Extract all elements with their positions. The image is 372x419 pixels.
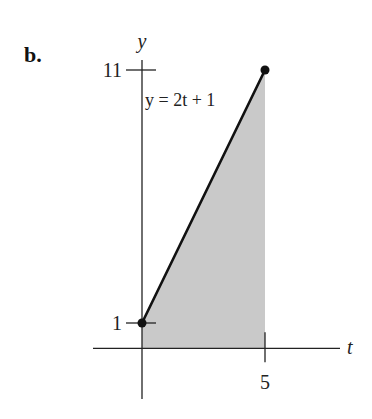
endpoint-start [138, 319, 147, 328]
chart: b. 111 5 t y y = 2t + 1 [0, 0, 372, 419]
y-tick-label: 1 [112, 312, 122, 334]
x-tick-label: 5 [260, 371, 270, 393]
y-tick-label: 11 [103, 59, 122, 81]
equation-annotation: y = 2t + 1 [145, 90, 215, 110]
y-axis-label: y [136, 30, 147, 53]
endpoint-end [261, 66, 270, 75]
shaded-region [142, 70, 265, 348]
x-axis-label: t [347, 336, 353, 358]
panel-label: b. [24, 42, 42, 67]
